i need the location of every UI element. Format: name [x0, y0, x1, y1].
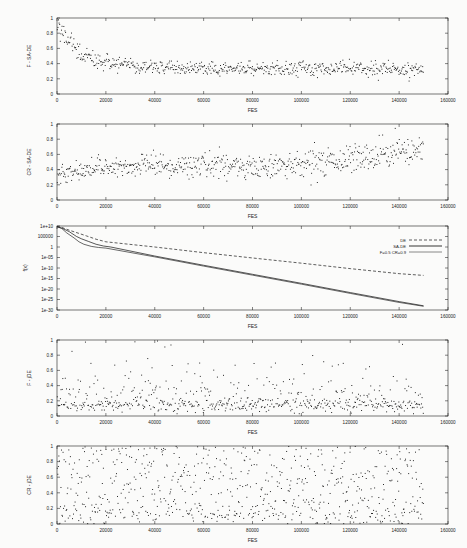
svg-text:1e+10: 1e+10: [40, 224, 53, 229]
svg-text:20000: 20000: [99, 528, 112, 533]
series-f-0-5-cr-0-9: [57, 227, 424, 307]
svg-text:20000: 20000: [99, 204, 112, 209]
svg-text:1: 1: [50, 338, 53, 343]
svg-text:120000: 120000: [343, 98, 359, 103]
svg-text:0: 0: [50, 92, 53, 97]
svg-text:0.6: 0.6: [47, 46, 54, 51]
scatter-points: [57, 19, 424, 81]
svg-text:FES: FES: [248, 107, 258, 113]
svg-text:0.2: 0.2: [47, 399, 54, 404]
subplot-cr-jde: 0200004000060000800001000001200001400001…: [0, 436, 467, 548]
scatter-points: [57, 341, 424, 415]
svg-text:FES: FES: [248, 537, 258, 543]
svg-text:0: 0: [50, 198, 53, 203]
svg-text:100000: 100000: [294, 204, 310, 209]
svg-text:0.4: 0.4: [47, 383, 54, 388]
svg-text:0.2: 0.2: [47, 506, 54, 511]
svg-text:120000: 120000: [343, 528, 359, 533]
svg-text:60000: 60000: [197, 314, 210, 319]
svg-text:1e-20: 1e-20: [41, 287, 53, 292]
svg-text:1e-30: 1e-30: [41, 308, 53, 313]
svg-text:0: 0: [56, 204, 59, 209]
svg-text:DE: DE: [400, 238, 406, 243]
svg-text:20000: 20000: [99, 314, 112, 319]
svg-text:0.6: 0.6: [47, 152, 54, 157]
svg-text:40000: 40000: [148, 420, 161, 425]
svg-text:0.6: 0.6: [47, 475, 54, 480]
svg-text:100000: 100000: [38, 234, 54, 239]
svg-text:FES: FES: [248, 323, 258, 329]
svg-text:160000: 160000: [440, 420, 456, 425]
scatter-points: [57, 446, 424, 524]
svg-text:CR - SA-DE: CR - SA-DE: [26, 148, 32, 176]
svg-text:0.4: 0.4: [47, 491, 54, 496]
svg-text:100000: 100000: [294, 314, 310, 319]
svg-text:0: 0: [50, 414, 53, 419]
svg-text:40000: 40000: [148, 204, 161, 209]
series-de: [57, 227, 424, 276]
svg-text:140000: 140000: [391, 98, 407, 103]
svg-text:0.8: 0.8: [47, 31, 54, 36]
svg-text:20000: 20000: [99, 420, 112, 425]
svg-text:100000: 100000: [294, 420, 310, 425]
svg-text:80000: 80000: [246, 98, 259, 103]
svg-text:1: 1: [50, 444, 53, 449]
svg-text:0: 0: [50, 522, 53, 527]
svg-text:80000: 80000: [246, 420, 259, 425]
svg-text:40000: 40000: [148, 528, 161, 533]
series-sa-de: [57, 227, 424, 306]
svg-text:1e-05: 1e-05: [41, 255, 53, 260]
svg-text:1: 1: [50, 16, 53, 21]
legend: DESA-DEF=0.5 CR=0.9: [380, 238, 442, 255]
svg-text:0: 0: [56, 528, 59, 533]
svg-text:0: 0: [56, 314, 59, 319]
svg-text:40000: 40000: [148, 98, 161, 103]
svg-text:140000: 140000: [391, 420, 407, 425]
svg-text:100000: 100000: [294, 98, 310, 103]
svg-text:0.8: 0.8: [47, 137, 54, 142]
svg-text:160000: 160000: [440, 98, 456, 103]
svg-text:F - SA-DE: F - SA-DE: [26, 44, 32, 67]
svg-text:0: 0: [56, 420, 59, 425]
svg-text:0.2: 0.2: [47, 183, 54, 188]
svg-text:120000: 120000: [343, 204, 359, 209]
svg-text:0.6: 0.6: [47, 368, 54, 373]
subplot-5-svg: 0200004000060000800001000001200001400001…: [0, 436, 467, 548]
subplot-convergence: 0200004000060000800001000001200001400001…: [0, 218, 467, 336]
subplot-3-svg: 0200004000060000800001000001200001400001…: [0, 218, 467, 336]
svg-text:120000: 120000: [343, 314, 359, 319]
svg-text:1: 1: [50, 245, 53, 250]
svg-text:F=0.5 CR=0.9: F=0.5 CR=0.9: [380, 250, 407, 255]
svg-text:160000: 160000: [440, 528, 456, 533]
svg-text:F - jDE: F - jDE: [26, 370, 32, 386]
svg-text:80000: 80000: [246, 528, 259, 533]
svg-text:40000: 40000: [148, 314, 161, 319]
subplot-f-jde: 0200004000060000800001000001200001400001…: [0, 330, 467, 440]
svg-text:160000: 160000: [440, 314, 456, 319]
svg-text:60000: 60000: [197, 420, 210, 425]
svg-text:60000: 60000: [197, 98, 210, 103]
svg-text:1e-25: 1e-25: [41, 297, 53, 302]
svg-text:140000: 140000: [391, 204, 407, 209]
svg-text:0.4: 0.4: [47, 167, 54, 172]
svg-text:SA-DE: SA-DE: [393, 244, 406, 249]
svg-text:CR - jDE: CR - jDE: [26, 474, 32, 494]
svg-text:f(x): f(x): [22, 264, 28, 272]
svg-text:20000: 20000: [99, 98, 112, 103]
svg-text:0.4: 0.4: [47, 61, 54, 66]
svg-text:120000: 120000: [343, 420, 359, 425]
svg-text:0.8: 0.8: [47, 459, 54, 464]
svg-text:140000: 140000: [391, 314, 407, 319]
svg-text:80000: 80000: [246, 314, 259, 319]
svg-text:60000: 60000: [197, 528, 210, 533]
svg-text:1e-15: 1e-15: [41, 276, 53, 281]
subplot-4-svg: 0200004000060000800001000001200001400001…: [0, 330, 467, 440]
svg-text:80000: 80000: [246, 204, 259, 209]
svg-text:60000: 60000: [197, 204, 210, 209]
svg-text:0: 0: [56, 98, 59, 103]
figure-canvas: 0200004000060000800001000001200001400001…: [0, 0, 467, 548]
svg-text:0.2: 0.2: [47, 77, 54, 82]
svg-text:FES: FES: [248, 429, 258, 435]
svg-text:140000: 140000: [391, 528, 407, 533]
svg-text:0.8: 0.8: [47, 353, 54, 358]
